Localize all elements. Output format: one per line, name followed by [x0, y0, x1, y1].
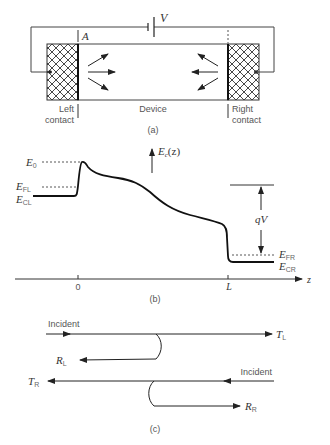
TL-label: TL: [276, 328, 286, 341]
left-contact: [47, 44, 78, 100]
left-contact-label-2: contact: [45, 115, 75, 125]
right-contact: [228, 44, 259, 100]
caption-b: (b): [150, 294, 161, 304]
left-contact-label-1: Left: [59, 104, 75, 114]
caption-c: (c): [150, 424, 161, 434]
reflected-left-arrow: [80, 334, 161, 360]
incident-left-label: Incident: [48, 319, 80, 329]
RR-label: RR: [244, 400, 257, 413]
tick-L-label: L: [225, 281, 232, 292]
battery-icon: [148, 17, 154, 37]
ECR-label: ECR: [278, 260, 296, 273]
panel-c: Incident TL RL Incident TR RR (c): [28, 319, 286, 434]
diagram-canvas: V A Left contact Device Right: [0, 0, 330, 445]
ECL-label: ECL: [15, 193, 32, 206]
EFL-label: EFL: [15, 180, 31, 193]
panel-a: V A Left contact Device Right: [31, 11, 274, 135]
right-contact-label-2: contact: [232, 115, 262, 125]
incident-right-label: Incident: [240, 367, 272, 377]
voltage-label: V: [160, 11, 169, 25]
TR-label: TR: [28, 375, 39, 388]
E0-label: E0: [25, 156, 37, 169]
caption-a: (a): [148, 125, 159, 135]
left-injection-arrows: [88, 54, 115, 90]
reflected-right-arrow: [149, 381, 240, 406]
boundary-A-label: A: [81, 30, 89, 42]
z-axis-label: z: [306, 274, 311, 285]
energy-axis-label: Ec(z): [157, 145, 180, 159]
device-label: Device: [139, 104, 167, 114]
right-injection-arrows: [192, 54, 218, 90]
tick-0-label: 0: [75, 282, 80, 292]
RL-label: RL: [55, 354, 67, 367]
conduction-band-curve: [33, 162, 274, 262]
right-contact-label-1: Right: [232, 104, 254, 114]
panel-b: Ec(z) E0 EFL ECL qV EFR ECR z 0 L (b): [15, 145, 311, 304]
qV-label: qV: [255, 213, 269, 225]
